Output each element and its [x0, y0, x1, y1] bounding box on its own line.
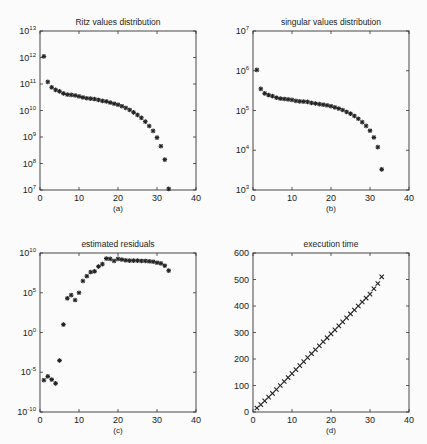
ritz-values-plot: Ritz values distribution0102030401071081…	[0, 0, 214, 222]
y-tick-label: 10-10	[17, 406, 36, 417]
chart-title: Ritz values distribution	[75, 17, 160, 27]
chart-title: estimated residuals	[81, 239, 154, 249]
y-tick-label: 10-5	[21, 366, 37, 377]
x-tick-label: 40	[404, 193, 414, 203]
data-points	[255, 68, 384, 172]
chart-caption: (b)	[326, 204, 336, 213]
x-tick-label: 20	[326, 193, 336, 203]
x-tick-label: 10	[74, 193, 84, 203]
chart-title: execution time	[304, 239, 359, 249]
y-tick-label: 100	[23, 327, 37, 338]
x-tick-label: 30	[152, 193, 162, 203]
x-tick-label: 20	[113, 415, 123, 425]
data-points	[42, 54, 171, 191]
y-tick-label: 1012	[19, 52, 36, 63]
y-tick-label: 1010	[19, 105, 36, 116]
y-tick-label: 0	[244, 407, 249, 417]
chart-caption: (c)	[113, 426, 123, 435]
x-tick-label: 0	[37, 193, 42, 203]
y-tick-label: 400	[234, 301, 249, 311]
execution-time-plot: execution time01020304001002003004005006…	[213, 222, 427, 444]
chart-caption: (a)	[113, 204, 123, 213]
axes-frame	[40, 253, 196, 412]
axes-frame	[253, 31, 409, 190]
x-tick-label: 40	[191, 193, 201, 203]
chart-caption: (d)	[326, 426, 336, 435]
chart-d: execution time01020304001002003004005006…	[213, 222, 427, 444]
y-tick-label: 103	[236, 184, 250, 195]
axes-frame	[253, 253, 409, 412]
y-tick-label: 104	[236, 144, 250, 155]
x-tick-label: 20	[326, 415, 336, 425]
y-tick-label: 300	[234, 328, 249, 338]
chart-c: estimated residuals01020304010-1010-5100…	[0, 222, 214, 444]
y-tick-label: 105	[23, 287, 37, 298]
y-tick-label: 1010	[19, 247, 36, 258]
y-tick-label: 107	[236, 25, 250, 36]
y-tick-label: 1013	[19, 25, 36, 36]
x-tick-label: 40	[404, 415, 414, 425]
y-tick-label: 108	[23, 158, 37, 169]
x-tick-label: 30	[365, 415, 375, 425]
y-tick-label: 105	[236, 105, 250, 116]
data-points	[42, 256, 171, 385]
y-tick-label: 500	[234, 275, 249, 285]
x-tick-label: 30	[152, 415, 162, 425]
estimated-residuals-plot: estimated residuals01020304010-1010-5100…	[0, 222, 214, 444]
y-tick-label: 109	[23, 131, 37, 142]
x-tick-label: 0	[250, 415, 255, 425]
chart-title: singular values distribution	[281, 17, 381, 27]
x-tick-label: 10	[287, 415, 297, 425]
x-tick-label: 10	[74, 415, 84, 425]
y-tick-label: 107	[23, 184, 37, 195]
x-tick-label: 20	[113, 193, 123, 203]
x-tick-label: 0	[37, 415, 42, 425]
data-points	[255, 275, 384, 411]
y-tick-label: 106	[236, 65, 250, 76]
y-tick-label: 100	[234, 381, 249, 391]
x-tick-label: 30	[365, 193, 375, 203]
axes-frame	[40, 31, 196, 190]
x-tick-label: 40	[191, 415, 201, 425]
x-tick-label: 10	[287, 193, 297, 203]
y-tick-label: 200	[234, 354, 249, 364]
y-tick-label: 1011	[20, 78, 37, 89]
singular-values-plot: singular values distribution010203040103…	[213, 0, 427, 222]
chart-a: Ritz values distribution0102030401071081…	[0, 0, 214, 222]
x-tick-label: 0	[250, 193, 255, 203]
chart-b: singular values distribution010203040103…	[213, 0, 427, 222]
y-tick-label: 600	[234, 248, 249, 258]
